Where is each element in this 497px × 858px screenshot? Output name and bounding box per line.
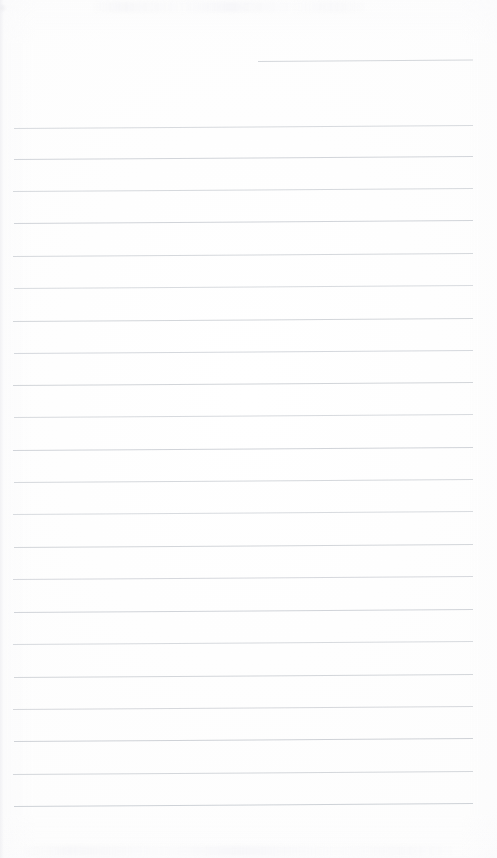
scanned-page [0, 0, 497, 858]
rule-line-partial [258, 60, 473, 62]
page-text-content [14, 118, 473, 818]
